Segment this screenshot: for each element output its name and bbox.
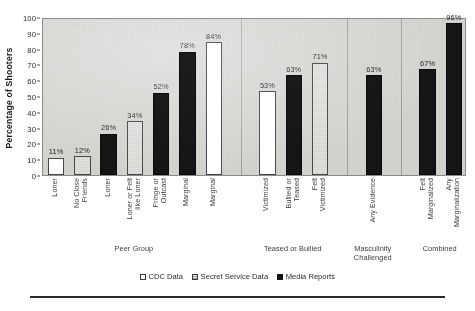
category-label: Loner bbox=[95, 178, 121, 242]
category-label: AnyMarginalization bbox=[440, 178, 466, 242]
bottom-rule bbox=[30, 296, 445, 298]
bar bbox=[259, 91, 275, 175]
legend-item-label: Secret Service Data bbox=[201, 272, 269, 281]
y-tick-mark bbox=[37, 65, 40, 66]
bar bbox=[286, 75, 302, 175]
bar-value-label: 96% bbox=[430, 13, 475, 22]
y-tick-label: 60 bbox=[6, 77, 36, 86]
y-tick-label: 50 bbox=[6, 93, 36, 102]
bar-value-label: 67% bbox=[404, 59, 451, 68]
y-tick-mark bbox=[37, 97, 40, 98]
category-label-text: FeltVictimized bbox=[311, 178, 326, 211]
legend-item: Secret Service Data bbox=[192, 272, 268, 281]
category-label-text: Loner bbox=[51, 178, 59, 197]
bar-value-label: 63% bbox=[350, 65, 397, 74]
category-label: Fringe orOutcast bbox=[147, 178, 173, 242]
category-label-text: No CloseFriends bbox=[74, 178, 89, 208]
category-label: Loner bbox=[42, 178, 68, 242]
group-separator bbox=[401, 19, 402, 175]
y-tick-mark bbox=[37, 176, 40, 177]
bar bbox=[179, 52, 195, 175]
category-label: Any Evidence bbox=[360, 178, 386, 242]
category-label-text: AnyMarginalization bbox=[445, 178, 460, 227]
bar bbox=[74, 156, 90, 175]
category-label: Victimized bbox=[253, 178, 279, 242]
category-label-text: FeltMarginalized bbox=[419, 178, 434, 219]
y-tick-label: 100 bbox=[6, 14, 36, 23]
category-label-text: Marginal bbox=[209, 178, 217, 206]
y-tick-label: 70 bbox=[6, 61, 36, 70]
y-tick-label: 90 bbox=[6, 30, 36, 39]
bar-value-label: 12% bbox=[59, 146, 106, 155]
category-label-text: Victimized bbox=[263, 178, 271, 211]
bar-value-label: 34% bbox=[111, 111, 158, 120]
y-tick-label: 40 bbox=[6, 109, 36, 118]
y-tick-label: 80 bbox=[6, 46, 36, 55]
y-tick-mark bbox=[37, 49, 40, 50]
group-label: MasculinityChallenged bbox=[346, 245, 400, 262]
y-tick-label: 20 bbox=[6, 140, 36, 149]
bar-value-label: 78% bbox=[164, 41, 211, 50]
bar bbox=[366, 75, 382, 175]
y-tick-label: 30 bbox=[6, 125, 36, 134]
hatched-square-swatch bbox=[192, 274, 198, 280]
open-square-swatch bbox=[140, 274, 146, 280]
group-label: Teased or Bullied bbox=[253, 245, 332, 254]
y-tick-mark bbox=[37, 112, 40, 113]
category-label-text: Bullied orTeased bbox=[285, 178, 300, 208]
category-label: Bullied orTeased bbox=[280, 178, 306, 242]
bar bbox=[100, 134, 116, 175]
bar bbox=[446, 23, 462, 175]
category-label: No CloseFriends bbox=[68, 178, 94, 242]
category-label: Marginal bbox=[173, 178, 199, 242]
legend-item-label: CDC Data bbox=[148, 272, 183, 281]
bar-value-label: 84% bbox=[190, 32, 237, 41]
filled-square-swatch bbox=[277, 274, 283, 280]
category-label-text: Fringe orOutcast bbox=[153, 178, 168, 207]
legend-item: Media Reports bbox=[277, 272, 335, 281]
bar-value-label: 52% bbox=[138, 82, 185, 91]
bars-layer: 11%12%26%34%52%78%84%53%63%71%63%67%96% bbox=[43, 19, 465, 175]
bar bbox=[206, 42, 222, 175]
group-separator bbox=[241, 19, 242, 175]
y-tick-mark bbox=[37, 33, 40, 34]
bar bbox=[48, 158, 64, 175]
category-label: Marginal bbox=[200, 178, 226, 242]
bar bbox=[153, 93, 169, 175]
y-tick-mark bbox=[37, 160, 40, 161]
category-label: Loner or Feltlike Loner bbox=[121, 178, 147, 242]
y-tick-mark bbox=[37, 128, 40, 129]
y-tick-mark bbox=[37, 18, 40, 19]
bar bbox=[419, 69, 435, 175]
legend-item-label: Media Reports bbox=[286, 272, 335, 281]
bar-value-label: 71% bbox=[296, 52, 343, 61]
y-tick-mark bbox=[37, 144, 40, 145]
category-label-text: Loner bbox=[104, 178, 112, 197]
plot-area: 11%12%26%34%52%78%84%53%63%71%63%67%96% bbox=[42, 18, 466, 176]
y-tick-label: 10 bbox=[6, 156, 36, 165]
bar-value-label: 53% bbox=[244, 81, 291, 90]
category-label: FeltMarginalized bbox=[413, 178, 439, 242]
y-tick-label: 0 bbox=[6, 172, 36, 181]
group-label: Combined bbox=[413, 245, 467, 254]
group-label: Peer Group bbox=[42, 245, 226, 254]
bar bbox=[312, 63, 328, 175]
group-labels: Peer GroupTeased or BulliedMasculinityCh… bbox=[42, 245, 466, 271]
group-separator bbox=[347, 19, 348, 175]
category-label-text: Marginal bbox=[183, 178, 191, 206]
bar-value-label: 63% bbox=[270, 65, 317, 74]
category-labels: LonerNo CloseFriendsLonerLoner or Feltli… bbox=[42, 178, 466, 244]
bar-value-label: 26% bbox=[85, 123, 132, 132]
category-label-text: Loner or Feltlike Loner bbox=[126, 178, 141, 219]
chart-legend: CDC DataSecret Service DataMedia Reports bbox=[0, 272, 475, 281]
legend-item: CDC Data bbox=[140, 272, 183, 281]
y-tick-mark bbox=[37, 81, 40, 82]
bar bbox=[127, 121, 143, 175]
figure: Percentage of Shooters 01020304050607080… bbox=[0, 0, 475, 311]
category-label-text: Any Evidence bbox=[369, 178, 377, 223]
category-label: FeltVictimized bbox=[306, 178, 332, 242]
